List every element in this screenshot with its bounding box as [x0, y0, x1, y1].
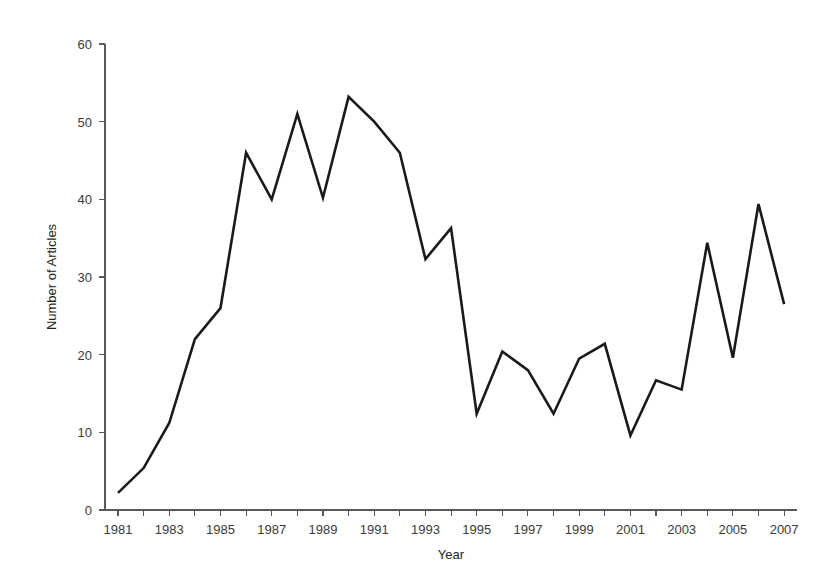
x-tick-label: 1997 — [513, 522, 542, 537]
x-tick-label: 1999 — [565, 522, 594, 537]
x-tick-label: 1993 — [411, 522, 440, 537]
y-tick-label: 20 — [78, 348, 92, 363]
articles-series-line — [118, 97, 784, 493]
x-tick-label: 2007 — [770, 522, 799, 537]
y-tick-label: 60 — [78, 37, 92, 52]
line-chart-figure: 0102030405060 19811983198519871989199119… — [0, 0, 839, 585]
x-tick-label: 2001 — [616, 522, 645, 537]
x-axis-tick-labels: 1981198319851987198919911993199519971999… — [104, 522, 799, 537]
y-axis-ticks — [99, 44, 105, 510]
y-axis-title: Number of Articles — [44, 223, 59, 330]
x-tick-label: 1981 — [104, 522, 133, 537]
y-tick-label: 30 — [78, 270, 92, 285]
x-tick-label: 1987 — [257, 522, 286, 537]
x-axis-ticks — [118, 510, 784, 516]
y-axis-tick-labels: 0102030405060 — [78, 37, 92, 518]
x-tick-label: 1991 — [360, 522, 389, 537]
x-tick-label: 1989 — [308, 522, 337, 537]
x-tick-label: 1985 — [206, 522, 235, 537]
x-tick-label: 1983 — [155, 522, 184, 537]
y-tick-label: 40 — [78, 192, 92, 207]
x-tick-label: 2005 — [718, 522, 747, 537]
x-axis-title: Year — [438, 547, 465, 562]
chart-plot-area: 0102030405060 19811983198519871989199119… — [0, 0, 839, 585]
y-tick-label: 10 — [78, 425, 92, 440]
x-tick-label: 1995 — [462, 522, 491, 537]
y-tick-label: 0 — [85, 503, 92, 518]
x-tick-label: 2003 — [667, 522, 696, 537]
y-tick-label: 50 — [78, 115, 92, 130]
